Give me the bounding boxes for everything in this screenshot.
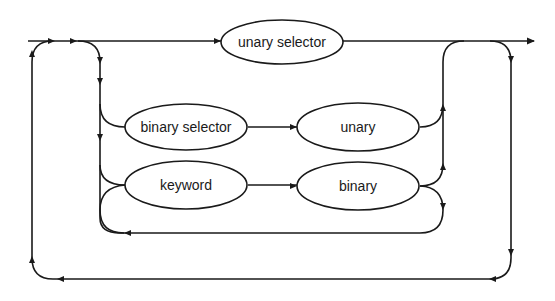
node-label: keyword — [160, 177, 212, 193]
branch-to-keyword — [100, 165, 125, 185]
outer-loop-left — [32, 41, 53, 258]
binary-rejoin — [420, 110, 443, 186]
arrow-icon — [508, 56, 514, 63]
exit-arrow-icon — [527, 38, 535, 45]
node-binary-selector: binary selector — [125, 104, 247, 150]
node-unary-selector: unary selector — [221, 20, 343, 64]
node-label: unary — [340, 119, 375, 135]
rejoin-right — [420, 41, 464, 127]
arrow-icon — [124, 230, 131, 236]
node-label: binary — [339, 178, 377, 194]
arrow-icon — [440, 104, 446, 111]
node-binary: binary — [297, 162, 419, 210]
node-unary: unary — [297, 103, 419, 151]
node-label: binary selector — [140, 119, 231, 135]
node-keyword: keyword — [125, 161, 247, 209]
arrow-icon — [440, 203, 446, 210]
node-label: unary selector — [238, 34, 326, 50]
arrow-icon — [290, 183, 297, 189]
arrow-icon — [70, 38, 77, 44]
arrow-icon — [57, 276, 64, 282]
arrow-icon — [440, 163, 446, 170]
arrow-icon — [214, 38, 221, 44]
arrow-icon — [508, 249, 514, 256]
arrow-icon — [97, 78, 103, 85]
syntax-diagram: unary selector binary selector unary key… — [0, 0, 555, 301]
outer-loop-right — [32, 41, 511, 279]
arrow-icon — [97, 57, 103, 64]
arrow-icon — [290, 124, 297, 130]
arrow-icon — [97, 134, 103, 141]
arrow-icon — [489, 276, 496, 282]
branch-to-binary-selector — [100, 104, 125, 127]
keyword-loop-return — [100, 185, 125, 233]
